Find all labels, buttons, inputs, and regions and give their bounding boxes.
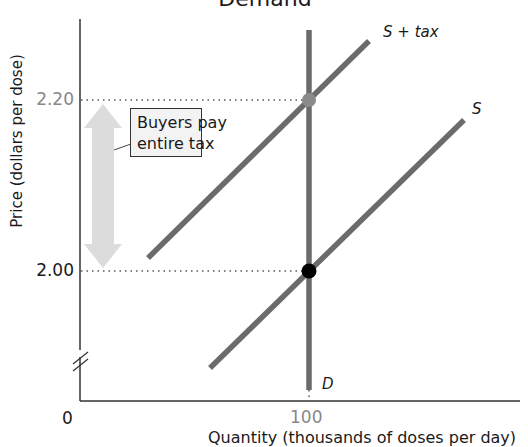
double-arrow-icon: [84, 104, 122, 268]
y-tick-2-20: 2.20: [26, 89, 74, 109]
equilibrium-point-after-tax: [302, 93, 316, 107]
label-d: D: [322, 375, 334, 393]
x-tick-100: 100: [290, 407, 322, 427]
x-tick-origin: 0: [62, 408, 73, 428]
equilibrium-point-before-tax: [302, 264, 317, 279]
chart-title: Demand: [190, 0, 340, 11]
label-s-plus-tax: S + tax: [383, 23, 439, 41]
y-tick-2-00: 2.00: [26, 260, 74, 280]
y-axis-label: Price (dollars per dose): [8, 36, 26, 246]
x-axis-label: Quantity (thousands of doses per day): [208, 428, 516, 447]
callout-buyers-pay-tax: Buyers pay entire tax: [130, 108, 202, 157]
label-s: S: [472, 100, 482, 118]
callout-leader: [114, 144, 131, 150]
callout-line-2: entire tax: [137, 133, 201, 154]
callout-line-1: Buyers pay: [137, 112, 201, 133]
